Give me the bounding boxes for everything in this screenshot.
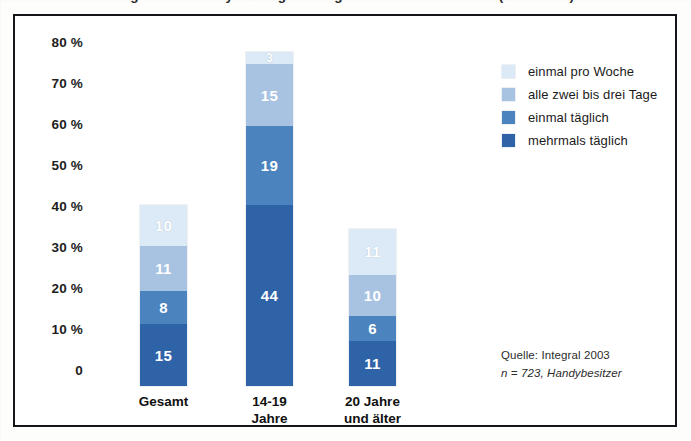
legend-label: alle zwei bis drei Tage <box>528 87 657 102</box>
y-tick-40: 40 % <box>21 199 83 214</box>
legend-swatch-icon <box>502 65 515 78</box>
page-title: Häufigkeit der Handynutzung von Jugendli… <box>96 0 574 3</box>
y-tick-30: 30 % <box>21 240 83 255</box>
x-label-20-jahre-und-aelter: 20 Jahre und älter <box>319 394 426 428</box>
legend-label: einmal täglich <box>528 110 609 125</box>
x-label-14-19-jahre: 14-19 Jahre <box>216 394 323 428</box>
legend: einmal pro Woche alle zwei bis drei Tage… <box>502 60 682 152</box>
bar-segment: 8 <box>140 291 187 324</box>
y-tick-20: 20 % <box>21 281 83 296</box>
bar-segment: 15 <box>246 64 293 126</box>
legend-item-mehrmals-taeglich[interactable]: mehrmals täglich <box>502 129 682 151</box>
legend-label: einmal pro Woche <box>528 64 634 79</box>
y-tick-70: 70 % <box>21 76 83 91</box>
legend-swatch-icon <box>502 111 515 124</box>
x-label-gesamt: Gesamt <box>110 394 217 411</box>
bar-14-19-jahre[interactable]: 3 15 19 44 <box>246 52 293 386</box>
bar-segment: 11 <box>140 246 187 291</box>
bar-segment: 10 <box>349 275 396 316</box>
chart-title-strip: Häufigkeit der Handynutzung von Jugendli… <box>0 0 691 13</box>
y-tick-0: 0 <box>21 363 83 378</box>
plot-area: 80 % 70 % 60 % 50 % 40 % 30 % 20 % 10 % … <box>15 16 679 429</box>
y-tick-80: 80 % <box>21 35 83 50</box>
bar-gesamt[interactable]: 10 11 8 15 <box>140 205 187 387</box>
source-line-1: Quelle: Integral 2003 <box>501 347 622 365</box>
bar-segment: 11 <box>349 229 396 274</box>
bar-segment: 6 <box>349 316 396 341</box>
y-tick-10: 10 % <box>21 322 83 337</box>
bar-20-jahre-und-aelter[interactable]: 11 10 6 11 <box>349 229 396 386</box>
bar-segment: 19 <box>246 126 293 204</box>
legend-item-alle-zwei-bis-drei-tage[interactable]: alle zwei bis drei Tage <box>502 83 682 105</box>
source-line-2: n = 723, Handybesitzer <box>501 365 622 383</box>
legend-swatch-icon <box>502 88 515 101</box>
bar-segment: 15 <box>140 324 187 386</box>
bar-segment: 44 <box>246 205 293 387</box>
legend-item-einmal-taeglich[interactable]: einmal täglich <box>502 106 682 128</box>
legend-item-einmal-pro-woche[interactable]: einmal pro Woche <box>502 60 682 82</box>
bar-segment: 10 <box>140 205 187 246</box>
source-note: Quelle: Integral 2003 n = 723, Handybesi… <box>501 347 622 383</box>
chart-frame: 80 % 70 % 60 % 50 % 40 % 30 % 20 % 10 % … <box>13 14 677 427</box>
legend-swatch-icon <box>502 134 515 147</box>
legend-label: mehrmals täglich <box>528 133 628 148</box>
bar-segment: 11 <box>349 341 396 386</box>
y-tick-50: 50 % <box>21 158 83 173</box>
y-tick-60: 60 % <box>21 117 83 132</box>
bar-segment: 3 <box>246 52 293 64</box>
